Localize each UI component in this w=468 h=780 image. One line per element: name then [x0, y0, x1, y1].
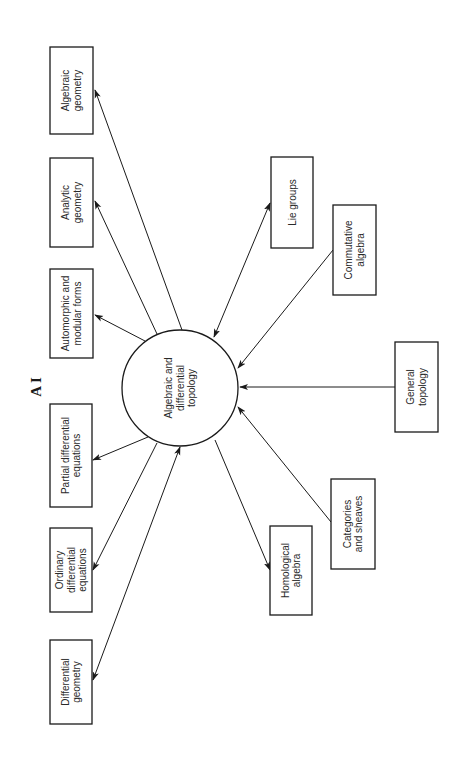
node-analytic-geometry: Analyticgeometry — [50, 158, 93, 247]
analytic-geometry-label-line: Analytic — [60, 185, 71, 220]
commutative-algebra-label-line: algebra — [355, 233, 366, 267]
differential-geometry-label-line: geometry — [71, 661, 82, 703]
node-commutative-algebra: Commutativealgebra — [333, 205, 376, 295]
automorphic-modular-forms-label-line: Automorphic and — [60, 276, 71, 352]
analytic-geometry-label-line: geometry — [72, 182, 83, 224]
ordinary-differential-equations-label-line: Ordinary — [54, 551, 65, 589]
node-automorphic-modular-forms: Automorphic andmodular forms — [50, 269, 93, 358]
node-lie-groups: Lie groups — [271, 157, 313, 248]
categories-and-sheaves-label-line: Categories — [342, 500, 353, 548]
edge-ordinary-differential-equations — [93, 443, 157, 570]
commutative-algebra-label-line: Commutative — [343, 220, 354, 279]
node-algebraic-geometry: Algebraicgeometry — [50, 47, 93, 134]
topology-relationship-diagram: AlgebraicgeometryAnalyticgeometryAutomor… — [0, 0, 468, 780]
hub-label-line: differential — [175, 365, 186, 411]
node-categories-and-sheaves: Categoriesand sheaves — [331, 479, 375, 569]
algebraic-geometry-label-line: geometry — [72, 70, 83, 112]
general-topology-label: Generaltopology — [405, 368, 428, 406]
categories-and-sheaves-label: Categoriesand sheaves — [342, 496, 365, 553]
categories-and-sheaves-label-line: and sheaves — [353, 496, 364, 553]
partial-differential-equations-label-line: Partial differential — [60, 417, 71, 494]
node-general-topology: Generaltopology — [395, 342, 438, 432]
edge-analytic-geometry — [95, 201, 157, 334]
algebraic-geometry-label: Algebraicgeometry — [60, 70, 83, 112]
partial-differential-equations-label-line: equations — [71, 434, 82, 477]
node-ordinary-differential-equations: Ordinarydifferentialequations — [50, 528, 92, 612]
ordinary-differential-equations-label: Ordinarydifferentialequations — [54, 547, 88, 593]
hub-label-line: Algebraic and — [163, 357, 174, 418]
differential-geometry-label-line: Differential — [60, 658, 71, 706]
edge-homological-algebra — [215, 440, 270, 570]
edge-partial-differential-equations — [93, 437, 148, 460]
differential-geometry-label: Differentialgeometry — [60, 658, 83, 706]
general-topology-label-line: General — [405, 369, 416, 405]
automorphic-modular-forms-label: Automorphic andmodular forms — [60, 276, 83, 352]
hub-node: Algebraic anddifferentialtopology — [122, 330, 238, 446]
edge-automorphic-modular-forms — [95, 315, 145, 341]
nodes: AlgebraicgeometryAnalyticgeometryAutomor… — [50, 47, 438, 724]
edge-commutative-algebra — [238, 250, 333, 368]
ordinary-differential-equations-label-line: differential — [66, 547, 77, 593]
node-differential-geometry: Differentialgeometry — [50, 640, 92, 724]
ordinary-differential-equations-label-line: equations — [77, 548, 88, 591]
edge-categories-and-sheaves — [238, 407, 331, 522]
automorphic-modular-forms-label-line: modular forms — [72, 282, 83, 346]
lie-groups-label: Lie groups — [287, 179, 298, 226]
edge-differential-geometry — [93, 447, 180, 680]
node-homological-algebra: Homologicalalgebra — [270, 526, 312, 615]
node-partial-differential-equations: Partial differentialequations — [50, 404, 92, 507]
algebraic-geometry-label-line: Algebraic — [60, 70, 71, 112]
lie-groups-label-line: Lie groups — [287, 179, 298, 226]
hub-label-line: topology — [186, 369, 197, 407]
figure-title: A I — [28, 377, 44, 397]
analytic-geometry-label: Analyticgeometry — [60, 182, 83, 224]
general-topology-label-line: topology — [417, 368, 428, 406]
edge-lie-groups — [214, 203, 270, 337]
homological-algebra-label-line: Homological — [280, 543, 291, 598]
homological-algebra-label-line: algebra — [291, 553, 302, 587]
